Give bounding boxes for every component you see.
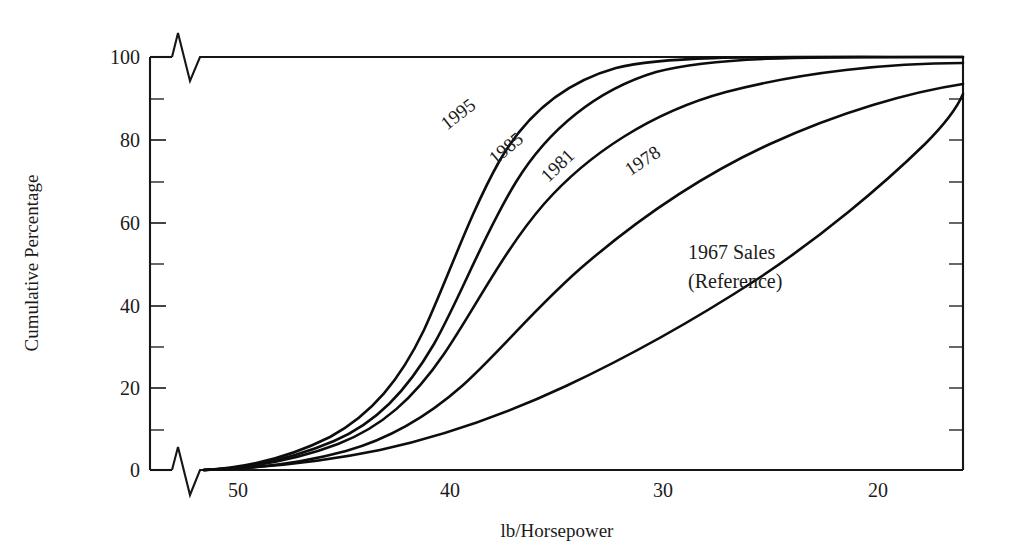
y-tick-label-40: 40 (120, 295, 140, 317)
y-tick-label-0: 0 (130, 459, 140, 481)
chart-figure: 100 80 60 40 20 0 50 40 30 20 lb/Horsepo… (0, 0, 1015, 557)
curve-1995 (204, 57, 963, 470)
reference-label-line2: (Reference) (688, 270, 782, 293)
y-tick-label-20: 20 (120, 377, 140, 399)
curve-label-1981: 1981 (537, 145, 579, 187)
x-axis-title: lb/Horsepower (501, 520, 615, 541)
curve-1985 (204, 57, 963, 470)
y-tick-label-100: 100 (110, 46, 140, 68)
y-axis-ticks (150, 57, 166, 470)
curve-label-1978: 1978 (621, 141, 664, 180)
x-tick-label-40: 40 (440, 479, 460, 501)
right-axis-ticks (949, 99, 963, 430)
y-tick-label-80: 80 (120, 129, 140, 151)
y-tick-label-60: 60 (120, 212, 140, 234)
y-axis-tick-labels: 100 80 60 40 20 0 (110, 46, 140, 481)
cumulative-percentage-chart: 100 80 60 40 20 0 50 40 30 20 lb/Horsepo… (0, 0, 1015, 557)
curve-1967-reference (204, 94, 963, 470)
reference-label-line1: 1967 Sales (688, 241, 775, 263)
x-axis-tick-labels: 50 40 30 20 (228, 479, 888, 501)
data-curves (204, 57, 963, 470)
x-tick-label-50: 50 (228, 479, 248, 501)
x-tick-label-20: 20 (868, 479, 888, 501)
reference-annotation: 1967 Sales (Reference) (688, 241, 782, 293)
curve-label-1985: 1985 (485, 128, 528, 169)
y-axis-title: Cumulative Percentage (21, 175, 42, 352)
curve-label-1995: 1995 (437, 94, 480, 134)
x-tick-label-30: 30 (653, 479, 673, 501)
plot-frame (150, 33, 963, 495)
curve-1978 (204, 84, 963, 470)
curve-labels: 1995 1985 1981 1978 (437, 94, 664, 186)
